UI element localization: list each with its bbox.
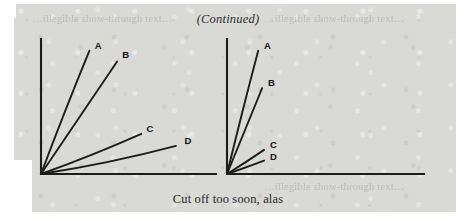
series-label-d: D bbox=[185, 135, 192, 146]
figure-page: …illegible show-through text… …illegible… bbox=[0, 0, 456, 218]
continued-note: (Continued) bbox=[0, 12, 456, 27]
series-label-d: D bbox=[270, 151, 277, 162]
line-chart-left: ABCD bbox=[28, 34, 218, 186]
line-chart-right: ABCD bbox=[214, 34, 426, 186]
series-label-a: A bbox=[264, 40, 271, 51]
scan-margin-left bbox=[0, 0, 14, 218]
series-label-a: A bbox=[95, 40, 102, 51]
series-label-b: B bbox=[268, 77, 275, 88]
series-label-b: B bbox=[122, 49, 129, 60]
scan-margin-bottom bbox=[0, 212, 456, 218]
figure-caption: Cut off too soon, alas bbox=[0, 192, 456, 207]
series-label-c: C bbox=[147, 123, 154, 134]
series-label-c: C bbox=[270, 139, 277, 150]
series-line-c bbox=[41, 134, 141, 174]
series-line-a bbox=[227, 51, 258, 174]
series-line-d bbox=[41, 146, 176, 174]
